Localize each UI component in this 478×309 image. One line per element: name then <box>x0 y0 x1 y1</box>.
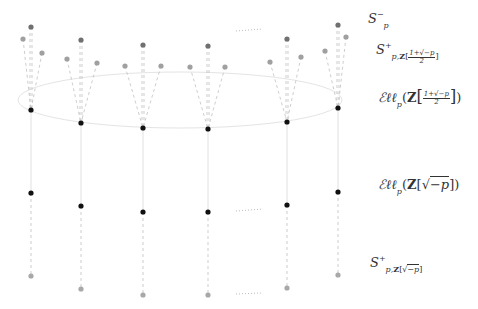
node-s-p-minus <box>205 43 210 48</box>
dashed-edge <box>67 59 81 123</box>
dashed-edge <box>325 51 338 108</box>
node-s-plus-half <box>222 64 227 69</box>
node-ell-sqrt <box>205 209 210 214</box>
dashed-edge <box>81 63 97 123</box>
label-radicand: −p <box>407 264 419 274</box>
label-ring: Z <box>407 90 417 105</box>
label-s-plus-half: S+p,Z[1+√−p2] <box>376 42 439 65</box>
dashed-edge <box>270 62 287 122</box>
node-ell-sqrt <box>284 202 289 207</box>
label-close-bracket: ] <box>419 265 422 274</box>
node-s-plus-half <box>122 63 127 68</box>
label-s-p-minus-sub: p <box>384 21 389 30</box>
dashed-edge <box>190 67 208 129</box>
label-ell-sqrt: ℰℓℓp(Z[√−p]) <box>378 178 459 196</box>
dashed-edge <box>338 37 346 108</box>
node-s-plus-sqrt <box>205 292 210 297</box>
node-s-p-minus <box>28 24 33 29</box>
label-close-bracket: ] <box>435 52 438 61</box>
node-s-plus-half <box>39 50 44 55</box>
label-ring: Z <box>407 177 417 192</box>
label-script: ℰℓℓ <box>378 90 397 105</box>
label-s-p-minus-base: S <box>368 11 377 26</box>
label-s-plus-sqrt: S+p,Z[√−p] <box>370 255 422 274</box>
label-close-paren: ) <box>456 90 461 105</box>
label-denominator: 2 <box>420 58 424 65</box>
node-s-p-minus <box>78 37 83 42</box>
ellipsis-dots <box>236 209 263 211</box>
label-sqrt-sign: √ <box>422 177 430 192</box>
dashed-edge <box>208 67 225 129</box>
node-s-plus-half <box>64 56 69 61</box>
label-base: S <box>376 42 385 57</box>
node-s-plus-half <box>158 63 163 68</box>
label-script: ℰℓℓ <box>378 177 397 192</box>
node-s-plus-sqrt <box>28 273 33 278</box>
node-s-plus-sqrt <box>284 285 289 290</box>
node-ell-sqrt <box>335 189 340 194</box>
ellipsis-dots <box>236 29 262 31</box>
node-s-p-minus <box>140 42 145 47</box>
node-s-plus-half <box>94 60 99 65</box>
node-s-plus-half <box>267 59 272 64</box>
label-ell-half: ℰℓℓp(Z[1+√−p2]) <box>378 89 461 109</box>
node-s-plus-half <box>298 54 303 59</box>
node-ell-half <box>140 125 145 130</box>
dashed-edge <box>143 66 161 128</box>
node-s-plus-half <box>20 36 25 41</box>
crater-ellipse <box>18 72 342 128</box>
node-ell-half <box>205 126 210 131</box>
label-radicand: −p <box>430 176 449 192</box>
node-s-plus-sqrt <box>78 286 83 291</box>
label-denominator: 2 <box>434 99 438 106</box>
node-s-plus-sqrt <box>335 272 340 277</box>
dashed-edge <box>23 39 31 110</box>
node-s-plus-half <box>322 48 327 53</box>
dashed-edge <box>287 57 301 122</box>
node-ell-half <box>28 107 33 112</box>
node-ell-sqrt <box>78 203 83 208</box>
node-s-p-minus <box>335 22 340 27</box>
node-s-plus-half <box>187 64 192 69</box>
node-ell-half <box>78 120 83 125</box>
node-ell-half <box>284 119 289 124</box>
label-sup: + <box>379 254 386 263</box>
label-fraction: 1+√−p2 <box>408 50 435 65</box>
label-s-p-minus-sup: − <box>377 10 384 19</box>
ellipsis-dots <box>236 293 262 294</box>
dashed-edge <box>31 53 42 110</box>
dashed-edge <box>125 66 143 128</box>
label-fraction: 1+√−p2 <box>423 91 450 106</box>
label-s-p-minus: S−p <box>368 11 389 30</box>
label-sup: + <box>385 41 392 50</box>
node-ell-half <box>335 105 340 110</box>
label-close-paren: ) <box>454 177 459 192</box>
node-ell-sqrt <box>140 209 145 214</box>
node-s-plus-half <box>343 34 348 39</box>
node-ell-sqrt <box>28 190 33 195</box>
node-s-plus-sqrt <box>140 292 145 297</box>
node-s-p-minus <box>284 36 289 41</box>
label-base: S <box>370 255 379 270</box>
